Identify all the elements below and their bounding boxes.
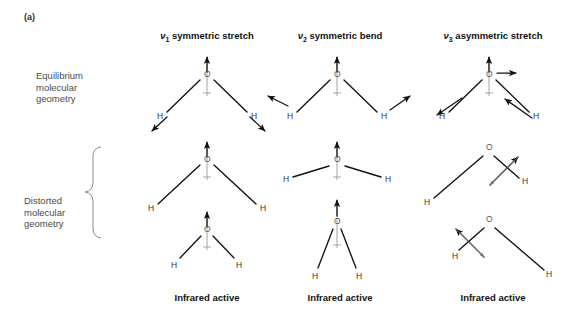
atom-label-hydrogen: H [356,271,362,281]
atom-label-hydrogen: H [171,260,177,270]
molecule-v3-distorted-left-long: O H H [424,142,528,207]
atom-label-hydrogen: H [385,174,391,184]
molecule-v2-equilibrium: O H H [268,57,410,121]
atom-label-oxygen: O [486,142,493,152]
atom-label-hydrogen: H [312,271,318,281]
caption-v3: Infrared active [408,292,575,303]
atom-label-hydrogen: H [546,269,552,279]
molecule-v3-distorted-right-long: O H H [452,214,552,279]
figure-panel: (a) ν1 symmetric stretch ν2 symmetric be… [0,0,575,325]
atom-label-hydrogen: H [381,111,387,121]
atom-label-oxygen: O [204,69,211,79]
atom-label-oxygen: O [486,214,493,224]
atom-label-oxygen: O [334,69,341,79]
atom-label-hydrogen: H [452,251,458,261]
atom-label-hydrogen: H [287,111,293,121]
atom-label-oxygen: O [204,154,211,164]
atom-label-hydrogen: H [157,111,163,121]
atom-label-hydrogen: H [236,260,242,270]
atom-label-hydrogen: H [148,203,154,213]
atom-label-oxygen: O [204,224,211,234]
molecule-v1-distorted-stretched: O H H [148,142,266,213]
molecule-v1-distorted-compressed: O H H [171,212,242,270]
molecule-v2-distorted-open: O H H [283,142,391,184]
molecule-v3-equilibrium: O H H [437,57,539,121]
atom-label-oxygen: O [486,69,493,79]
atom-label-hydrogen: H [260,203,266,213]
distorted-geometry-brace [85,147,101,238]
caption-v2: Infrared active [260,292,420,303]
atom-label-hydrogen: H [283,174,289,184]
atom-label-oxygen: O [334,154,341,164]
atom-label-hydrogen: H [424,197,430,207]
molecule-v2-distorted-closed: O H H [312,200,362,281]
molecule-diagram-svg: O H H O H H O H H [0,0,575,325]
atom-label-hydrogen: H [522,176,528,186]
molecule-v1-equilibrium: O H H [152,57,265,131]
atom-label-hydrogen: H [533,111,539,121]
atom-label-oxygen: O [334,216,341,226]
